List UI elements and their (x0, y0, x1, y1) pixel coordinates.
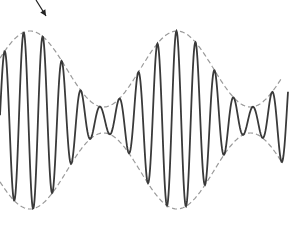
lower-envelope (0, 133, 282, 209)
am-wave-canvas (0, 0, 295, 241)
modulated-carrier-wave (0, 31, 288, 209)
pointer-arrow-icon (36, 0, 46, 16)
am-wave-diagram (0, 0, 295, 241)
